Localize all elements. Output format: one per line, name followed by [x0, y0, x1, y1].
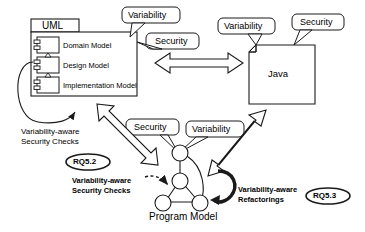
refactoring-loop-arrow [210, 171, 235, 205]
annotation-uml-checks-line2: Security Checks [21, 137, 79, 147]
badge-label-rq53: RQ5.3 [313, 192, 336, 200]
callout-label-java-security: Security [300, 18, 333, 27]
uml-package-tab-label: UML [42, 21, 63, 31]
annotation-pm-checks-line2: Security Checks [72, 186, 130, 196]
component-icon-domain-model [34, 37, 59, 53]
annotation-pm-checks-line1: Variability-aware [72, 176, 131, 186]
block-arrow-java-programmodel [208, 110, 266, 176]
callout-label-pm-security: Security [134, 123, 167, 132]
callout-label-java-variability: Variability [224, 22, 262, 31]
component-label-implementation-model: Implementation Model [63, 82, 137, 90]
component-icon-implementation-model [34, 77, 59, 93]
callout-label-uml-security: Security [155, 37, 188, 46]
java-note-label: Java [268, 69, 288, 79]
component-label-domain-model: Domain Model [63, 42, 111, 50]
program-model-graph [155, 145, 208, 211]
component-label-design-model: Design Model [63, 62, 109, 70]
program-model-label: Program Model [149, 212, 217, 222]
diagram-vector-layer [0, 0, 365, 232]
callout-label-pm-variability: Variability [192, 125, 230, 134]
block-arrow-uml-java [155, 53, 243, 73]
diagram-canvas: UML Domain Model Design Model Implementa… [0, 0, 365, 232]
annotation-pm-refactorings-line1: Variability-aware [238, 185, 297, 195]
callout-label-uml-variability: Variability [128, 11, 166, 20]
badge-label-rq52: RQ5.2 [73, 158, 96, 166]
annotation-pm-refactorings-line2: Refactorings [238, 195, 284, 205]
annotation-uml-checks-line1: Variability-aware [21, 127, 80, 137]
component-icon-design-model [34, 57, 59, 73]
dashed-pointer-security-checks [145, 176, 168, 185]
